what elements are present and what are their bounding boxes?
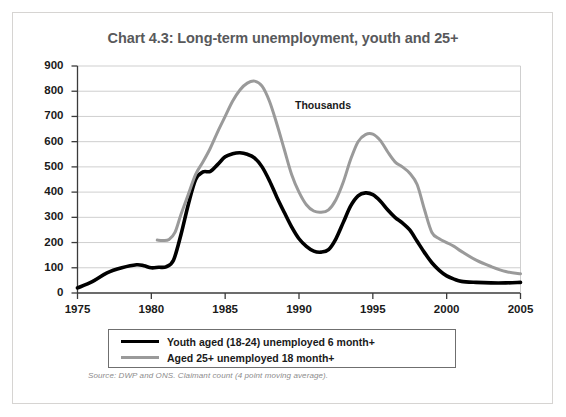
y-tick-label: 300 — [24, 211, 64, 222]
legend-label-youth: Youth aged (18-24) unemployed 6 month+ — [167, 336, 375, 348]
y-tick-label: 100 — [24, 262, 64, 273]
legend-swatch-aged25plus-line — [121, 356, 159, 359]
y-tick-label: 400 — [24, 186, 64, 197]
x-tick-label: 1995 — [348, 303, 398, 315]
x-tick-label: 1980 — [126, 303, 176, 315]
y-tick-label: 700 — [24, 110, 64, 121]
legend-item-youth: Youth aged (18-24) unemployed 6 month+ — [121, 333, 375, 350]
y-tick-label: 200 — [24, 237, 64, 248]
y-tick-label: 900 — [24, 60, 64, 71]
legend-item-aged25plus: Aged 25+ unemployed 18 month+ — [121, 349, 334, 366]
x-tick-label: 2000 — [422, 303, 472, 315]
chart-legend: Youth aged (18-24) unemployed 6 month+ A… — [108, 329, 456, 368]
y-tick-label: 0 — [24, 287, 64, 298]
chart-figure: Chart 4.3: Long-term unemployment, youth… — [0, 0, 566, 417]
x-tick-label: 2005 — [496, 303, 546, 315]
y-tick-label: 600 — [24, 136, 64, 147]
source-note: Source: DWP and ONS. Claimant count (4 p… — [88, 371, 328, 380]
thousands-annotation: Thousands — [295, 99, 351, 111]
x-tick-label: 1985 — [200, 303, 250, 315]
data-series — [78, 81, 521, 288]
legend-swatch-youth-line — [121, 340, 159, 344]
y-tick-label: 800 — [24, 85, 64, 96]
legend-label-aged25plus: Aged 25+ unemployed 18 month+ — [167, 352, 334, 364]
x-tick-label: 1990 — [274, 303, 324, 315]
x-tick-label: 1975 — [53, 303, 103, 315]
y-tick-label: 500 — [24, 161, 64, 172]
